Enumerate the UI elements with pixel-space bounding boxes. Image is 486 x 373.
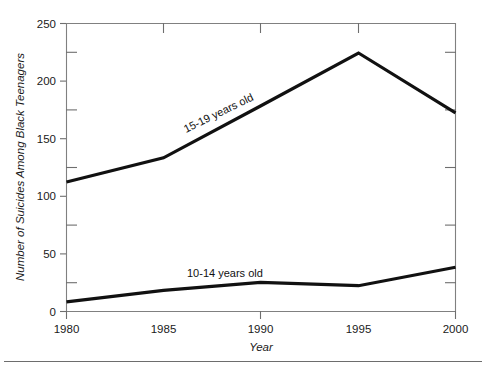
- x-axis-major-ticks: [67, 311, 456, 319]
- y-tick-label: 50: [43, 248, 56, 260]
- y-tick-label: 250: [37, 18, 56, 30]
- series-line-15-19: [67, 53, 456, 182]
- x-tick-labels: 1980 1985 1990 1995 2000: [54, 323, 469, 335]
- y-tick-label: 100: [37, 190, 56, 202]
- y-tick-label: 0: [50, 306, 56, 318]
- y-tick-labels: 250 200 150 100 50 0: [37, 18, 56, 318]
- y-axis-title: Number of Suicides Among Black Teenagers: [14, 53, 26, 281]
- y-tick-label: 150: [37, 133, 56, 145]
- series-annotation-10-14: 10-14 years old: [187, 267, 263, 279]
- y-axis-minor-ticks-right: [445, 52, 456, 282]
- x-axis-title: Year: [249, 341, 274, 353]
- y-tick-label: 200: [37, 75, 56, 87]
- figure-container: 250 200 150 100 50 0 1980 1985 1990 1995…: [0, 0, 486, 373]
- y-axis-major-ticks: [60, 24, 66, 312]
- x-tick-label: 1990: [248, 323, 274, 335]
- x-axis-top-ticks: [164, 23, 359, 33]
- line-chart: 250 200 150 100 50 0 1980 1985 1990 1995…: [0, 0, 486, 373]
- x-tick-label: 1995: [346, 323, 372, 335]
- x-tick-label: 2000: [443, 323, 469, 335]
- x-tick-label: 1985: [151, 323, 177, 335]
- y-axis-minor-ticks: [66, 52, 77, 282]
- x-tick-label: 1980: [54, 323, 80, 335]
